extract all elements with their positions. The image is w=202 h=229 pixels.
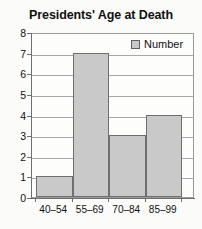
chart-title: Presidents' Age at Death [0, 8, 202, 22]
y-axis-tick-mark [27, 177, 31, 178]
x-axis-tick-label: 70–84 [112, 204, 140, 215]
bar [109, 135, 146, 197]
plot-inner [32, 34, 193, 197]
y-axis-tick-label: 4 [6, 110, 26, 122]
y-axis-tick-label: 0 [6, 192, 26, 204]
y-axis-tick-label: 6 [6, 68, 26, 80]
chart-legend: Number [128, 36, 186, 52]
bar [73, 53, 110, 197]
y-axis-tick-mark [27, 198, 31, 199]
y-axis-tick-mark [27, 95, 31, 96]
y-axis-tick-label: 3 [6, 130, 26, 142]
x-axis-tick-mark [35, 198, 36, 202]
chart-figure: Presidents' Age at Death 01234567840–545… [0, 0, 202, 229]
bar [146, 115, 183, 198]
y-axis-tick-mark [27, 54, 31, 55]
y-axis-tick-mark [27, 74, 31, 75]
y-axis-tick-label: 5 [6, 89, 26, 101]
y-axis-line [31, 33, 32, 199]
x-axis-tick-label: 55–69 [76, 204, 104, 215]
x-axis-tick-mark [145, 198, 146, 202]
gridline [32, 96, 193, 97]
y-axis-tick-label: 7 [6, 48, 26, 60]
legend-swatch-number [131, 40, 140, 49]
y-axis-tick-label: 8 [6, 27, 26, 39]
y-axis-tick-label: 2 [6, 151, 26, 163]
bar [36, 176, 73, 197]
x-axis-tick-label: 40–54 [39, 204, 67, 215]
x-axis-tick-mark [181, 198, 182, 202]
legend-label-number: Number [144, 38, 183, 50]
x-axis-tick-mark [72, 198, 73, 202]
y-axis-tick-mark [27, 157, 31, 158]
y-axis-tick-mark [27, 33, 31, 34]
y-axis-tick-label: 1 [6, 171, 26, 183]
gridline [32, 75, 193, 76]
x-axis-line [31, 198, 195, 199]
x-axis-tick-label: 85–99 [149, 204, 177, 215]
y-axis-tick-mark [27, 136, 31, 137]
x-axis-tick-mark [108, 198, 109, 202]
plot-area [31, 33, 194, 198]
y-axis-tick-mark [27, 116, 31, 117]
gridline [32, 55, 193, 56]
